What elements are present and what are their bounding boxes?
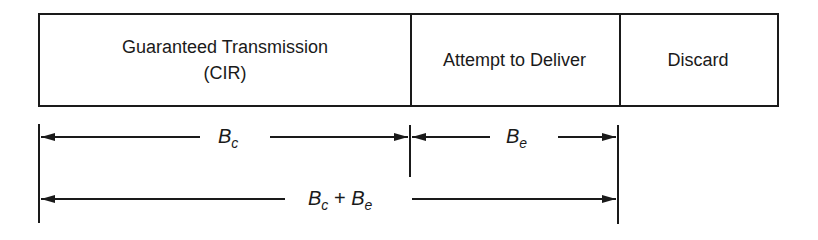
bc-label: Bc bbox=[212, 124, 244, 155]
be-label: Be bbox=[500, 124, 533, 155]
bc-plus-be-label: Bc + Be bbox=[302, 186, 378, 217]
dimension-lines bbox=[0, 0, 818, 240]
